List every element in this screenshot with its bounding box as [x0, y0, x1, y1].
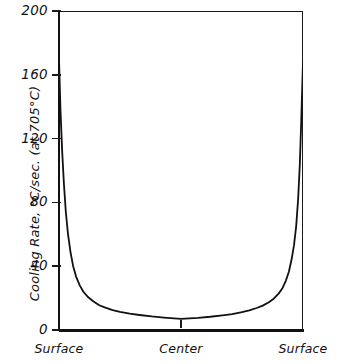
y-tick-mark-120 — [52, 138, 61, 140]
y-tick-label-200: 200 — [21, 2, 48, 18]
x-tick-label-2: Surface — [243, 341, 337, 356]
cooling-rate-chart: 20016012080400 SurfaceCenterSurface Cool… — [0, 0, 337, 364]
x-tick-label-0: Surface — [0, 341, 119, 356]
x-tick-mark-center — [180, 320, 182, 328]
cooling-rate-curve — [59, 11, 303, 330]
x-tick-label-1: Center — [121, 341, 241, 356]
y-tick-mark-200 — [52, 10, 61, 12]
y-tick-mark-80 — [52, 202, 61, 204]
y-axis-title: Cooling Rate, °C/sec. (at 705°C) — [27, 64, 42, 324]
y-tick-mark-160 — [52, 74, 61, 76]
y-tick-mark-40 — [52, 265, 61, 267]
y-tick-mark-0 — [52, 329, 61, 331]
